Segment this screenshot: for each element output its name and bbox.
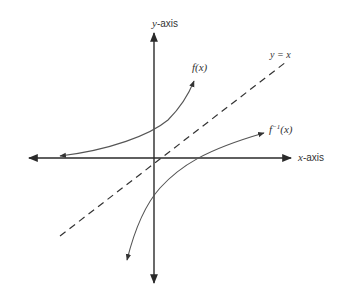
x-axis-label: x-axis — [298, 152, 324, 163]
graph-canvas — [0, 0, 342, 297]
f-inverse-arg: (x) — [280, 123, 292, 135]
identity-line-label: y = x — [270, 50, 291, 60]
f-curve-label: f(x) — [192, 62, 207, 73]
y-axis-label: y-axis — [152, 18, 178, 29]
y-axis-suffix: -axis — [157, 18, 178, 29]
f-inverse-curve-label: f−1(x) — [269, 124, 293, 135]
identity-line — [60, 62, 286, 236]
x-axis-suffix: -axis — [303, 152, 324, 163]
f-inverse-curve — [127, 133, 264, 260]
f-curve — [60, 81, 194, 156]
